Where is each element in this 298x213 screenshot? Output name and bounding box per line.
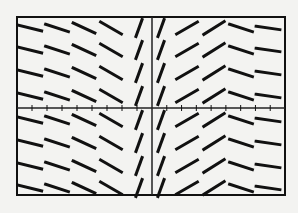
slope-segment [46,162,69,169]
slope-segment [158,20,164,37]
slope-segment [230,24,253,31]
slope-segment [158,88,164,105]
slope-segment [136,88,142,105]
slope-segment [18,163,41,169]
slope-segment [177,160,198,172]
slope-segment [204,160,224,173]
slope-segment [101,67,122,79]
slope-segment [256,71,280,74]
slope-segment [73,91,95,101]
slope-segment [204,182,224,195]
slope-segment [256,94,280,97]
slope-segment [204,67,224,80]
slope-segment [256,48,280,51]
slope-segment [177,67,198,79]
slope-segment [136,42,142,59]
slope-segment [18,93,41,99]
slope-segment [230,92,253,99]
slope-segment [230,46,253,53]
slope-segment [46,139,69,146]
slope-segment [73,161,95,171]
slope-segment [46,116,69,123]
slope-segment [230,162,253,169]
slope-segment [136,158,142,175]
slope-segment [101,114,122,126]
slope-segment [204,90,224,103]
slope-segment [158,42,164,59]
slope-segment [46,69,69,76]
slope-segment [101,160,122,172]
slope-segment [158,65,164,82]
slope-segment [18,185,41,191]
slope-segment [177,114,198,126]
slope-segment [136,65,142,82]
slope-segment [101,137,122,149]
slope-segment [18,25,41,31]
slope-segment [46,46,69,53]
slope-segment [73,23,95,33]
slope-segment [230,116,253,123]
slope-segment [101,182,122,194]
slope-segment [230,139,253,146]
slope-segment [204,114,224,127]
slope-segment [73,115,95,125]
slope-segment [18,140,41,146]
slope-segment [230,184,253,191]
slope-segment [204,44,224,57]
slope-segment [136,112,142,129]
slope-segment [256,141,280,144]
slope-segment [18,70,41,76]
slope-segment [101,44,122,56]
slope-segment [18,47,41,53]
slope-segment [204,22,224,35]
slope-segment [136,20,142,37]
slope-segment [256,118,280,121]
slope-segment [177,182,198,194]
slope-segment [256,26,280,29]
slope-segment [101,90,122,102]
slope-segment [158,135,164,152]
slope-segment [177,22,198,34]
slope-segment [136,180,142,197]
slope-segment [204,137,224,150]
slope-segment [46,184,69,191]
slope-segment [18,117,41,123]
slope-segment [177,137,198,149]
slope-segment [46,24,69,31]
slope-segment [73,68,95,78]
slope-segment [158,180,164,197]
slope-segment [136,135,142,152]
slope-segment [73,138,95,148]
slope-segment [177,90,198,102]
slope-segment [46,92,69,99]
slope-segment [101,22,122,34]
slope-segment [256,164,280,167]
slope-segment [158,112,164,129]
slope-segment [73,183,95,193]
slope-segment [158,158,164,175]
slope-segment [73,45,95,55]
slope-field-plot [0,0,298,213]
slope-segment [256,186,280,189]
slope-segment [177,44,198,56]
slope-segment [230,69,253,76]
